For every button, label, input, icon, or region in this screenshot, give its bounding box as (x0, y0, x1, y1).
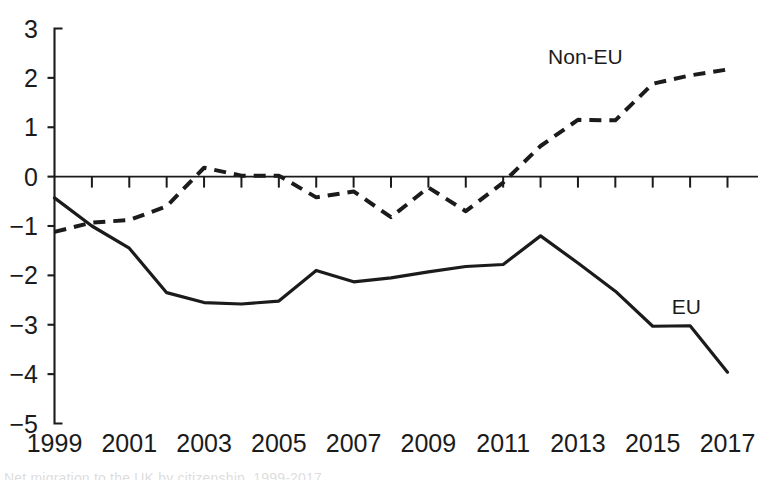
y-tick-label: 3 (24, 15, 38, 43)
series-label-eu: EU (672, 295, 701, 318)
x-axis-tick-labels: 1999200120032005200720092011201320152017 (27, 429, 756, 457)
y-tick-label: −3 (9, 311, 38, 339)
x-tick-label: 2013 (550, 429, 606, 457)
y-tick-label: −1 (9, 212, 38, 240)
series-annotations: Non-EUEU (548, 45, 701, 318)
x-tick-label: 2001 (101, 429, 157, 457)
y-axis-spine (55, 29, 63, 424)
y-tick-label: 1 (24, 113, 38, 141)
clipped-figure-caption: Net migration to the UK by citizenship, … (4, 470, 322, 480)
series-label-non-eu: Non-EU (548, 45, 623, 68)
series-line-non-eu (55, 69, 728, 231)
x-tick-label: 2015 (625, 429, 681, 457)
y-tick-label: 2 (24, 64, 38, 92)
x-tick-label: 2011 (476, 429, 530, 457)
y-tick-label: −2 (9, 261, 38, 289)
y-tick-label: −4 (9, 360, 38, 388)
series-line-eu (55, 198, 728, 372)
x-tick-label: 2009 (401, 429, 457, 457)
data-series-group (55, 69, 728, 372)
y-axis-tick-labels: 3210−1−2−3−4−5 (9, 15, 38, 438)
x-tick-label: 1999 (27, 429, 83, 457)
x-tick-label: 2017 (700, 429, 756, 457)
axis-spine-path (55, 29, 63, 424)
x-tick-label: 2005 (251, 429, 307, 457)
x-tick-label: 2003 (176, 429, 232, 457)
y-tick-label: 0 (24, 163, 38, 191)
x-tick-label: 2007 (326, 429, 382, 457)
